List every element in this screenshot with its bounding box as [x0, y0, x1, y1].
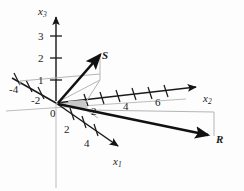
x3-axis-group [50, 17, 62, 101]
r-top-guide [86, 110, 214, 112]
x3-tick-label-1: 1 [38, 75, 44, 86]
vector-diagram-figure: 3 2 1 x3 0 2 4 6 -2 -4 x2 2 4 x1 S R [0, 0, 244, 191]
x1-tick-label-2: 2 [64, 124, 70, 135]
vector-s-label: S [102, 50, 108, 61]
x1-axis-label-subscript: 1 [118, 160, 122, 169]
x2-axis-label: x2 [203, 93, 212, 105]
x2-tick-label-neg-4: -4 [9, 84, 18, 95]
x3-tick-label-2: 2 [38, 53, 44, 64]
x1-axis-label: x1 [113, 156, 122, 168]
origin-label: 0 [50, 108, 56, 119]
x2-axis-label-subscript: 2 [208, 97, 212, 106]
x2-tick-label-6: 6 [155, 97, 161, 108]
x1-tick-label-4: 4 [84, 138, 90, 149]
x2-tick-label-neg-2: -2 [31, 95, 40, 106]
vector-s-arrow [58, 55, 100, 103]
x3-axis-label: x3 [38, 6, 47, 18]
vector-r-label: R [216, 134, 223, 145]
x2-tick-label-2: 2 [91, 106, 97, 117]
x2-tick-label-4: 4 [123, 101, 129, 112]
x3-tick-label-3: 3 [38, 31, 44, 42]
x3-axis-label-subscript: 3 [43, 10, 47, 19]
